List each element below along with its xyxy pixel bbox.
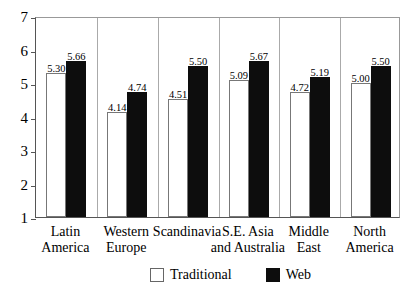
category-label-line1: S.E. Asia (222, 224, 274, 239)
group-separator (97, 18, 98, 217)
plot-area: 5.305.664.144.744.515.505.095.674.725.19… (35, 17, 400, 218)
bar-web-5 (371, 66, 391, 217)
bar-web-4 (310, 77, 330, 217)
bar-value-label: 5.19 (304, 67, 336, 78)
category-label-line1: North (353, 224, 386, 239)
y-axis-tick-6: 6 (6, 44, 28, 59)
bar-web-1 (127, 92, 147, 217)
legend-entry-traditional: Traditional (150, 268, 232, 282)
bar-value-label: 4.74 (121, 82, 153, 93)
y-axis-tick-7: 7 (6, 10, 28, 25)
bar-value-label: 5.67 (243, 51, 275, 62)
category-label-line2: America (332, 240, 407, 256)
legend-entry-web: Web (266, 268, 311, 282)
bar-value-label: 5.50 (365, 56, 397, 67)
bar-value-label: 5.66 (60, 51, 92, 62)
bar-traditional-0 (46, 73, 66, 217)
y-axis-tickmark-5 (31, 85, 36, 86)
group-separator (219, 18, 220, 217)
y-axis-tickmark-2 (31, 186, 36, 187)
bar-web-2 (188, 66, 208, 217)
chart-legend: TraditionalWeb (150, 268, 311, 282)
y-axis-tick-2: 2 (6, 178, 28, 193)
bar-web-0 (66, 61, 86, 217)
legend-label-web: Web (286, 268, 311, 282)
legend-swatch-web-icon (266, 268, 280, 282)
category-label-line1: Western (103, 224, 149, 239)
y-axis-tick-5: 5 (6, 77, 28, 92)
category-label-5: NorthAmerica (332, 224, 407, 256)
group-separator (279, 18, 280, 217)
bar-chart-figure: 7654321 5.305.664.144.744.515.505.095.67… (0, 0, 418, 298)
bar-web-3 (249, 61, 269, 217)
y-axis-tick-3: 3 (6, 144, 28, 159)
bar-traditional-4 (290, 92, 310, 217)
bar-traditional-2 (168, 99, 188, 217)
category-label-line1: Middle (289, 224, 329, 239)
group-separator (158, 18, 159, 217)
y-axis-tickmark-7 (31, 18, 36, 19)
y-axis-tick-4: 4 (6, 111, 28, 126)
legend-swatch-traditional-icon (150, 268, 164, 282)
y-axis-tickmark-3 (31, 152, 36, 153)
category-label-line2: Europe (89, 240, 164, 256)
y-axis-tickmark-1 (31, 219, 36, 220)
y-axis-tickmark-6 (31, 52, 36, 53)
y-axis-tick-1: 1 (6, 211, 28, 226)
bar-traditional-1 (107, 112, 127, 217)
bar-traditional-3 (229, 80, 249, 217)
plot-inner: 5.305.664.144.744.515.505.095.674.725.19… (36, 18, 399, 217)
bar-value-label: 5.50 (182, 56, 214, 67)
group-separator (340, 18, 341, 217)
legend-label-traditional: Traditional (170, 268, 232, 282)
category-label-line1: Latin (51, 224, 81, 239)
bar-traditional-5 (351, 83, 371, 217)
y-axis-tickmark-4 (31, 119, 36, 120)
